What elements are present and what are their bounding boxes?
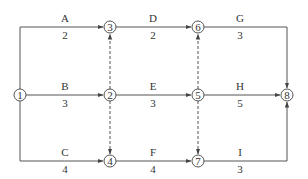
activity-c-name: C bbox=[61, 146, 68, 158]
node-1: 1 bbox=[14, 89, 26, 101]
activity-b-name: B bbox=[61, 80, 68, 92]
activity-e-name: E bbox=[150, 80, 157, 92]
activity-c: C 4 bbox=[20, 101, 103, 175]
activity-e: E 3 bbox=[116, 80, 191, 109]
activity-f: F 4 bbox=[116, 146, 191, 175]
node-8-label: 8 bbox=[284, 89, 290, 101]
node-4: 4 bbox=[104, 155, 116, 167]
activity-f-duration: 4 bbox=[150, 163, 156, 175]
activity-i-duration: 3 bbox=[237, 163, 243, 175]
activity-c-duration: 4 bbox=[62, 163, 68, 175]
activity-g-duration: 3 bbox=[237, 29, 243, 41]
activity-b: B 3 bbox=[26, 80, 103, 109]
activity-d-name: D bbox=[149, 12, 157, 24]
activity-a-name: A bbox=[61, 12, 69, 24]
activity-g: G 3 bbox=[204, 12, 287, 88]
activity-g-name: G bbox=[236, 12, 244, 24]
activity-h-duration: 5 bbox=[237, 97, 243, 109]
node-6: 6 bbox=[192, 21, 204, 33]
activity-d-duration: 2 bbox=[150, 29, 156, 41]
node-3-label: 3 bbox=[107, 21, 113, 33]
activity-f-name: F bbox=[150, 146, 156, 158]
activity-e-duration: 3 bbox=[150, 97, 156, 109]
activity-a: A 2 bbox=[20, 12, 103, 89]
node-6-label: 6 bbox=[195, 21, 201, 33]
activity-d: D 2 bbox=[116, 12, 191, 41]
activity-i-name: I bbox=[238, 146, 242, 158]
node-2: 2 bbox=[104, 89, 116, 101]
network-diagram: A 2 B 3 C 4 D 2 E 3 F 4 G 3 H 5 bbox=[0, 0, 308, 179]
node-2-label: 2 bbox=[107, 89, 113, 101]
activity-i: I 3 bbox=[204, 102, 287, 175]
activity-h: H 5 bbox=[204, 80, 280, 109]
node-3: 3 bbox=[104, 21, 116, 33]
node-8: 8 bbox=[281, 89, 293, 101]
node-5: 5 bbox=[192, 89, 204, 101]
node-4-label: 4 bbox=[107, 155, 113, 167]
node-1-label: 1 bbox=[17, 89, 23, 101]
activity-a-duration: 2 bbox=[62, 29, 68, 41]
node-7: 7 bbox=[192, 155, 204, 167]
activity-b-duration: 3 bbox=[62, 97, 68, 109]
activity-h-name: H bbox=[236, 80, 244, 92]
node-5-label: 5 bbox=[195, 89, 201, 101]
node-7-label: 7 bbox=[195, 155, 201, 167]
